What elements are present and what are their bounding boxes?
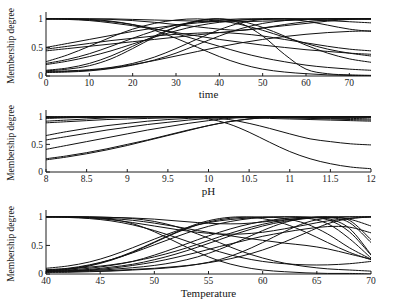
y-axis-title-ph: Membership degree (6, 105, 16, 181)
curve-mf16 (46, 19, 371, 65)
curve-mf11 (46, 117, 371, 169)
y-axis-title-temperature: Membership degree (6, 206, 16, 282)
x-axis-time: 010203040506070 (44, 73, 355, 88)
chart-temperature: 4045505560657000.51TemperatureMembership… (0, 200, 393, 304)
x-tick-label: 65 (312, 276, 322, 286)
y-tick-label: 0 (38, 167, 43, 177)
chart-panel-time: 01020304050607000.51timeMembership degre… (0, 0, 393, 100)
x-tick-label: 45 (95, 276, 105, 286)
y-axis-title-time: Membership degree (6, 8, 16, 84)
curves-temperature (46, 217, 371, 274)
x-tick-label: 50 (150, 276, 160, 286)
x-tick-label: 60 (258, 276, 268, 286)
y-tick-label: 0 (38, 71, 43, 81)
x-tick-label: 8.5 (81, 174, 93, 184)
x-tick-label: 30 (171, 78, 181, 88)
x-tick-label: 8 (44, 174, 49, 184)
curve-mf3 (46, 19, 371, 71)
y-tick-label: 0.5 (31, 241, 43, 251)
chart-panel-temperature: 4045505560657000.51TemperatureMembership… (0, 200, 393, 304)
membership-function-figure: 01020304050607000.51timeMembership degre… (0, 0, 393, 304)
chart-panel-ph: 88.599.51010.51111.51200.51pHMembership … (0, 100, 393, 200)
x-tick-label: 55 (204, 276, 214, 286)
x-tick-label: 20 (128, 78, 138, 88)
y-tick-label: 0.5 (31, 43, 43, 53)
x-tick-label: 9.5 (162, 174, 174, 184)
x-axis-ph: 88.599.51010.51111.512 (44, 169, 376, 184)
x-axis-title-time: time (199, 88, 219, 100)
x-tick-label: 0 (44, 78, 49, 88)
x-tick-label: 9 (125, 174, 130, 184)
y-axis-ph: 00.51 (31, 112, 50, 177)
y-tick-label: 0.5 (31, 140, 43, 150)
curve-mf9 (46, 117, 371, 160)
x-axis-title-ph: pH (202, 185, 216, 197)
x-tick-label: 12 (366, 174, 376, 184)
x-tick-label: 10 (85, 78, 95, 88)
curve-mf6 (46, 19, 371, 64)
curve-mf6 (46, 217, 371, 269)
x-tick-label: 60 (301, 78, 311, 88)
x-tick-label: 10.5 (241, 174, 258, 184)
curves-time (46, 19, 371, 76)
x-tick-label: 11.5 (322, 174, 339, 184)
y-tick-label: 0 (38, 269, 43, 279)
y-tick-label: 1 (38, 212, 43, 222)
x-axis-title-temperature: Temperature (181, 287, 237, 299)
x-tick-label: 11 (285, 174, 294, 184)
x-tick-label: 50 (258, 78, 268, 88)
curves-ph (46, 117, 371, 169)
y-tick-label: 1 (38, 14, 43, 24)
x-tick-label: 10 (204, 174, 214, 184)
chart-ph: 88.599.51010.51111.51200.51pHMembership … (0, 100, 393, 200)
x-tick-label: 70 (366, 276, 376, 286)
curve-mf7 (46, 117, 371, 150)
x-tick-label: 40 (215, 78, 225, 88)
chart-time: 01020304050607000.51timeMembership degre… (0, 0, 393, 100)
x-tick-label: 70 (345, 78, 355, 88)
y-tick-label: 1 (38, 112, 43, 122)
